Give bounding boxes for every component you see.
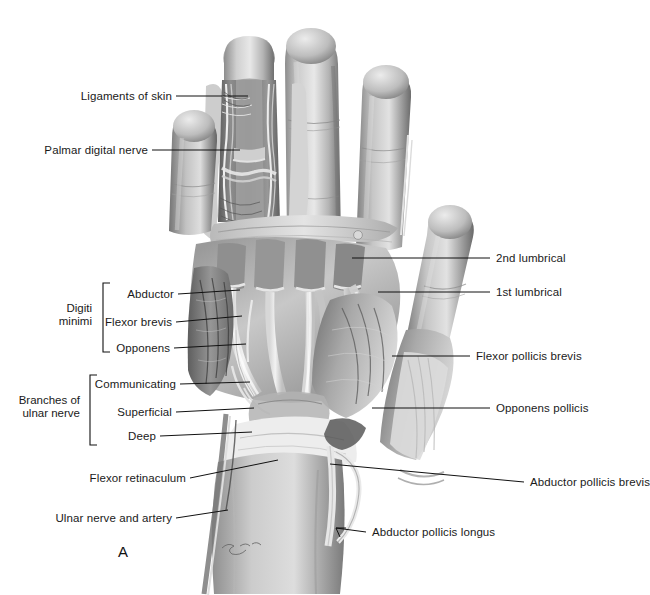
label-ligaments-of-skin: Ligaments of skin <box>0 90 172 103</box>
label-abductor: Abductor <box>0 288 174 301</box>
little-finger <box>169 110 217 235</box>
flexor-retinaculum-and-wrist <box>204 414 366 595</box>
leader-superficial <box>176 408 254 412</box>
label-communicating: Communicating <box>0 378 176 391</box>
illustration-body <box>169 28 474 595</box>
label-flexor-pollicis-brevis: Flexor pollicis brevis <box>476 350 582 363</box>
label-flexor-brevis: Flexor brevis <box>0 316 172 329</box>
label-palmar-digital-nerve: Palmar digital nerve <box>0 144 148 157</box>
label-opponens-pollicis: Opponens pollicis <box>496 402 588 415</box>
label-abductor-pollicis-brevis: Abductor pollicis brevis <box>530 476 650 489</box>
label-superficial: Superficial <box>0 406 172 419</box>
label-abductor-pollicis-longus: Abductor pollicis longus <box>372 526 495 539</box>
group-brackets <box>90 283 110 445</box>
label-flexor-retinaculum: Flexor retinaculum <box>0 472 186 485</box>
label-ulnar-nerve-and-artery: Ulnar nerve and artery <box>0 512 172 525</box>
label-1st-lumbrical: 1st lumbrical <box>496 286 562 299</box>
label-opponens: Opponens <box>0 342 170 355</box>
panel-label-a: A <box>118 543 128 560</box>
label-2nd-lumbrical: 2nd lumbrical <box>496 252 566 265</box>
group-label-digiti-minimi-line1: Digiti <box>0 302 92 315</box>
label-deep: Deep <box>0 430 156 443</box>
